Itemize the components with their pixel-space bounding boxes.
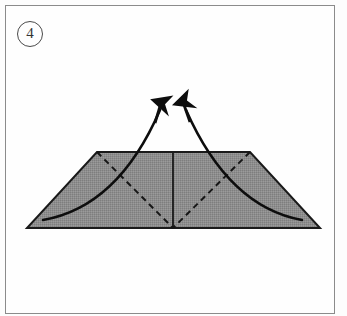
step-number-badge: 4 xyxy=(17,21,43,47)
right-fold-arrow xyxy=(183,102,190,122)
origami-figure xyxy=(0,0,347,316)
diagram-page: 4 xyxy=(0,0,347,316)
